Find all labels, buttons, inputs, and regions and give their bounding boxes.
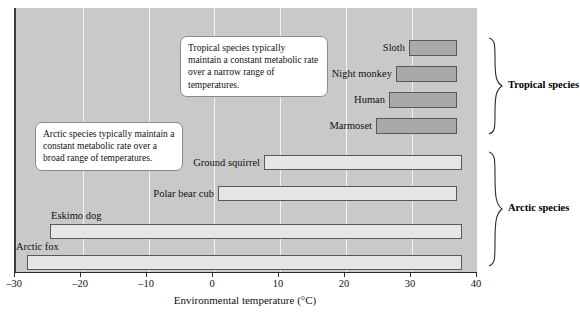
tick-label-30: 30 xyxy=(405,278,416,289)
brace-arctic-icon xyxy=(486,150,504,268)
tick-30 xyxy=(410,272,411,277)
bar-arctic-fox xyxy=(27,255,462,270)
tick-label-minus20: –20 xyxy=(72,278,88,289)
tick-zero xyxy=(212,272,213,277)
bar-polar-bear-cub xyxy=(218,186,457,201)
group-arctic-species: Arctic species xyxy=(486,150,576,268)
bar-human xyxy=(389,92,457,108)
group-label-tropical: Tropical species xyxy=(508,79,579,90)
callout-arctic-species: Arctic species typically maintain a cons… xyxy=(35,122,183,171)
bar-label-eskimo-dog: Eskimo dog xyxy=(51,210,101,222)
tick-minus20 xyxy=(80,272,81,277)
tick-label-minus10: –10 xyxy=(138,278,154,289)
bar-sloth xyxy=(409,40,457,56)
tick-label-20: 20 xyxy=(339,278,350,289)
bar-marmoset xyxy=(376,118,457,134)
bar-ground-squirrel xyxy=(264,155,462,170)
group-tropical-species: Tropical species xyxy=(486,36,576,136)
bar-night-monkey xyxy=(396,66,457,82)
bar-label-marmoset: Marmoset xyxy=(290,120,372,132)
tick-label-zero: 0 xyxy=(209,278,214,289)
bar-label-arctic-fox: Arctic fox xyxy=(16,241,59,253)
tick-label-minus30: –30 xyxy=(6,278,22,289)
bar-label-ground-squirrel: Ground squirrel xyxy=(178,157,260,169)
brace-tropical-icon xyxy=(486,36,504,136)
bar-eskimo-dog xyxy=(50,224,462,239)
bar-label-polar-bear-cub: Polar bear cub xyxy=(128,188,214,200)
group-label-arctic: Arctic species xyxy=(508,202,569,213)
tick-10 xyxy=(278,272,279,277)
figure-temperature-ranges: Sloth Night monkey Human Marmoset Ground… xyxy=(0,0,580,320)
tick-40 xyxy=(476,272,477,277)
callout-tropical-species: Tropical species typically maintain a co… xyxy=(180,36,328,97)
x-axis-line xyxy=(14,272,477,273)
x-axis-title: Environmental temperature (°C) xyxy=(0,294,490,306)
tick-label-40: 40 xyxy=(471,278,482,289)
tick-minus10 xyxy=(146,272,147,277)
tick-label-10: 10 xyxy=(273,278,284,289)
bar-label-sloth: Sloth xyxy=(329,42,405,54)
tick-minus30 xyxy=(14,272,15,277)
tick-20 xyxy=(344,272,345,277)
